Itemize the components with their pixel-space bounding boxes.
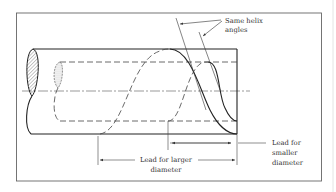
lead-larger-label-1: Lead for larger <box>140 156 193 164</box>
helix-diagram: Same helix angles Lead for smaller diame… <box>0 0 336 192</box>
helix-leader-2 <box>203 21 222 36</box>
inner-cylinder <box>54 62 237 121</box>
lead-smaller-label-1: Lead for <box>272 139 302 147</box>
helix-angle-line-2 <box>199 32 220 90</box>
lead-larger-label-2: diameter <box>150 166 182 174</box>
helix-angle-label-1: Same helix <box>225 17 263 25</box>
helix-angle-line-1 <box>176 18 206 110</box>
lead-smaller-label-2: smaller <box>272 149 298 157</box>
lead-smaller-label-3: diameter <box>272 159 304 167</box>
inner-end-section <box>54 62 62 88</box>
helix-angle-label-2: angles <box>225 26 248 34</box>
helix-leader-1 <box>180 20 221 24</box>
outer-end-section <box>27 49 38 96</box>
